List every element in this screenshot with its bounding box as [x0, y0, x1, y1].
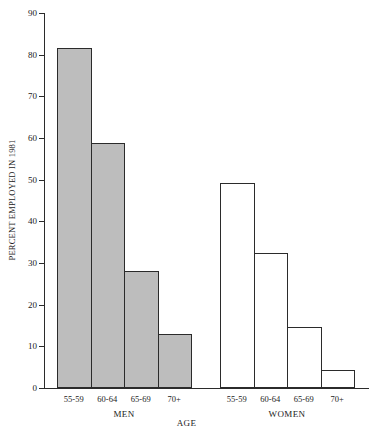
category-label: 65-69	[131, 394, 151, 404]
bar	[91, 143, 126, 388]
category-label: 70+	[331, 394, 344, 404]
bar	[220, 183, 255, 388]
category-label: 60-64	[97, 394, 117, 404]
y-tick-mark	[39, 13, 44, 14]
bar	[321, 370, 356, 388]
y-tick-mark	[39, 346, 44, 347]
bar	[287, 327, 322, 388]
y-tick-mark	[39, 138, 44, 139]
bar	[254, 253, 289, 388]
y-tick-mark	[39, 180, 44, 181]
y-tick-label: 10	[28, 341, 37, 351]
y-tick-mark	[39, 221, 44, 222]
y-tick-mark	[39, 263, 44, 264]
y-tick-label: 80	[28, 50, 37, 60]
y-tick-label: 70	[28, 91, 37, 101]
y-tick-mark	[39, 305, 44, 306]
bar	[158, 334, 193, 388]
category-label: 70+	[168, 394, 181, 404]
y-tick-mark	[39, 55, 44, 56]
category-label: 60-64	[260, 394, 280, 404]
y-axis-title-text: PERCENT EMPLOYED IN 1981	[7, 139, 17, 260]
bar	[124, 271, 159, 388]
y-tick-label: 30	[28, 258, 37, 268]
y-axis-title: PERCENT EMPLOYED IN 1981	[0, 0, 24, 400]
bar	[57, 48, 92, 388]
plot-area: 0102030405060708090 55-5960-6465-6970+55…	[44, 13, 373, 388]
y-tick-label: 0	[33, 383, 38, 393]
y-axis-line	[44, 13, 45, 388]
category-label: 55-59	[64, 394, 84, 404]
y-tick-label: 60	[28, 133, 37, 143]
y-tick-label: 20	[28, 300, 37, 310]
y-tick-mark	[39, 388, 44, 389]
category-label: 65-69	[294, 394, 314, 404]
y-tick-mark	[39, 96, 44, 97]
y-tick-label: 90	[28, 8, 37, 18]
y-tick-label: 50	[28, 175, 37, 185]
y-tick-label: 40	[28, 216, 37, 226]
x-axis-line	[44, 388, 369, 389]
category-label: 55-59	[227, 394, 247, 404]
bar-chart: PERCENT EMPLOYED IN 1981 010203040506070…	[0, 0, 373, 437]
x-axis-title-text: AGE	[177, 418, 197, 428]
x-axis-title: AGE	[0, 418, 373, 428]
